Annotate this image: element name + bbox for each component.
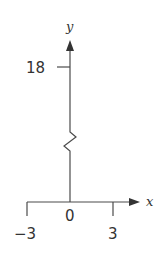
x-tick-label-0: 0: [65, 207, 75, 225]
x-tick-label-3: 3: [108, 225, 118, 243]
y-tick-label-18: 18: [26, 59, 45, 77]
y-axis-arrow-icon: [66, 40, 74, 51]
x-axis-label: x: [146, 194, 154, 209]
y-axis-label: y: [65, 19, 74, 34]
x-tick-label-neg3: −3: [14, 225, 36, 243]
coordinate-axes-diagram: y x 18 0 −3 3: [0, 0, 167, 255]
x-axis-arrow-icon: [129, 198, 140, 206]
y-axis-break-zigzag: [64, 130, 76, 153]
